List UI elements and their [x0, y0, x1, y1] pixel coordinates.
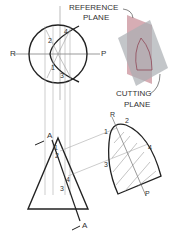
top-view — [14, 6, 100, 195]
pictorial-planes — [118, 9, 168, 94]
top-label-r: R — [10, 50, 16, 58]
cutting-plane-label-1: CUTTING — [116, 90, 152, 98]
front-label-a-top: A — [47, 132, 52, 140]
conic-section-diagram — [0, 0, 177, 235]
top-label-3: 3 — [60, 72, 64, 79]
cutting-plane-label-2: PLANE — [124, 101, 150, 109]
true-shape-outline — [109, 124, 161, 194]
reference-plane-label-2: PLANE — [83, 14, 109, 22]
front-label-1: 1 — [54, 144, 58, 151]
front-label-4: 4 — [66, 176, 70, 183]
top-label-4: 4 — [64, 28, 68, 35]
true-label-3: 3 — [104, 161, 108, 168]
top-label-2: 2 — [48, 37, 52, 44]
top-label-1: 1 — [51, 64, 55, 71]
front-label-3: 3 — [60, 185, 64, 192]
true-label-4: 4 — [148, 144, 152, 151]
front-label-2: 2 — [55, 152, 59, 159]
true-label-p: P — [145, 190, 150, 197]
true-label-1: 1 — [104, 128, 108, 135]
top-label-p: P — [101, 50, 106, 58]
reference-plane-label-1: REFERENCE — [69, 4, 118, 12]
cutting-plane-shape — [118, 20, 168, 86]
front-label-a-bottom: A — [82, 222, 87, 230]
projection-lines — [60, 128, 148, 176]
true-label-2: 2 — [125, 117, 129, 124]
true-label-r: R — [110, 111, 115, 118]
cone-front — [28, 138, 88, 209]
